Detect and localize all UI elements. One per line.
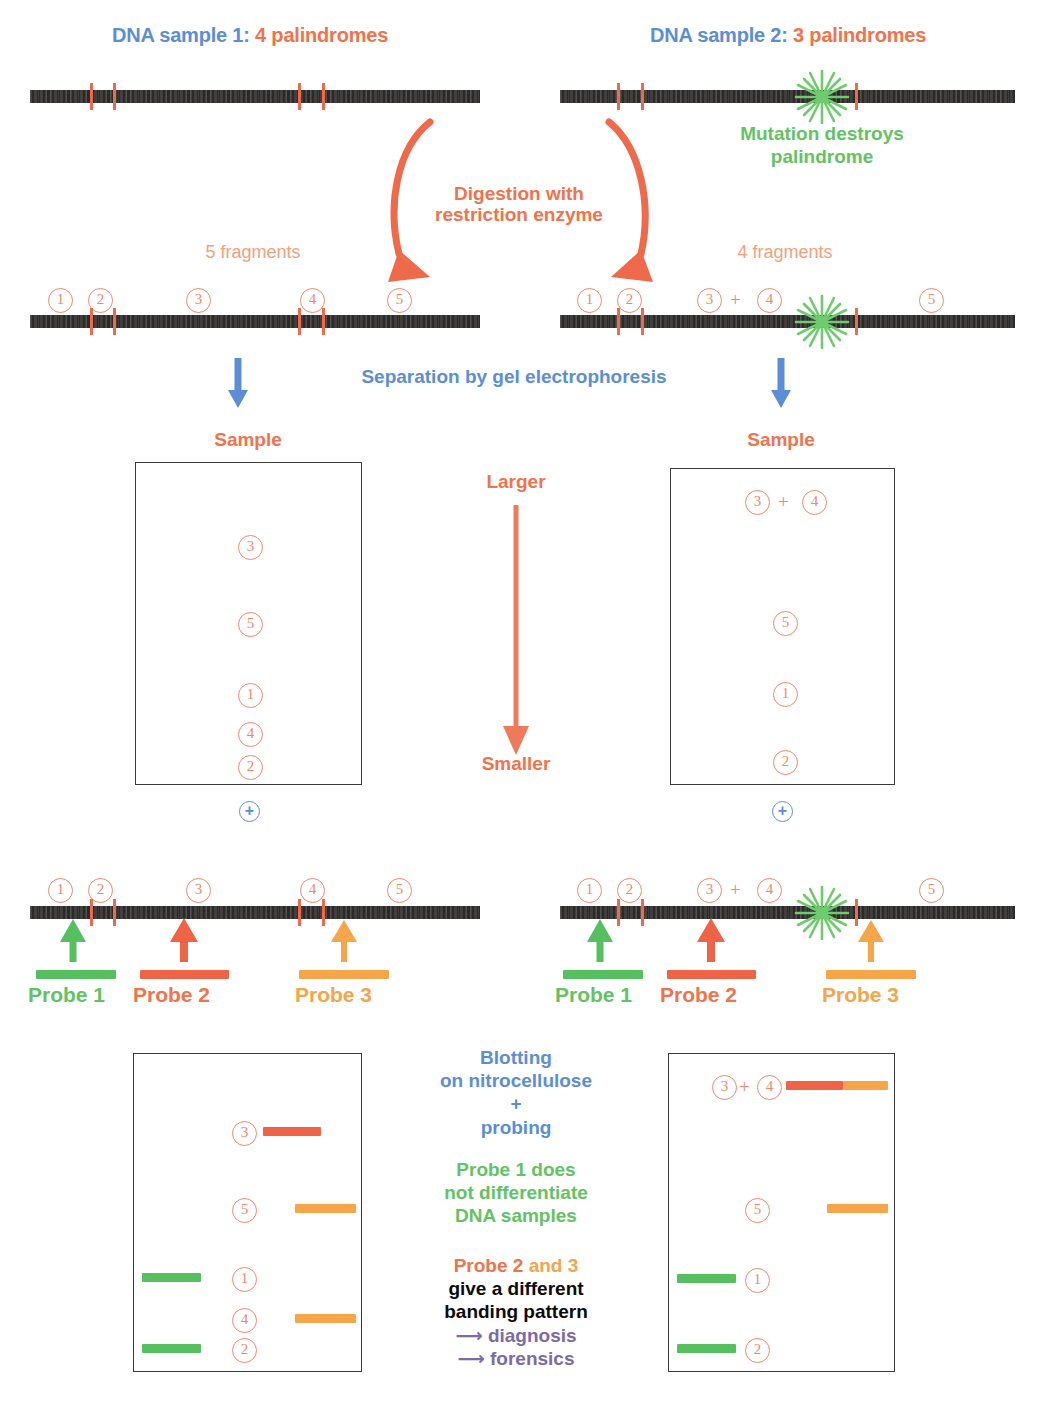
mutation-label-line1: Mutation destroys [740, 123, 904, 146]
mutation-label-line2: palindrome [740, 146, 904, 169]
restriction-site [617, 899, 620, 926]
dna-strand-sample2-digested [560, 315, 1015, 328]
blot-row-label-3: 3 [232, 1121, 257, 1146]
blotting-note: Blotting on nitrocellulose + probing [440, 1046, 592, 1139]
electrophoresis-caption: Separation by gel electrophoresis [361, 366, 666, 389]
gel-lane-label-5: 5 [238, 612, 263, 637]
gel-lane-label-3: 3 [238, 535, 263, 560]
blot-row-label-1: 1 [745, 1268, 770, 1293]
probe23-note-mid: and [523, 1255, 567, 1276]
restriction-site [617, 308, 620, 335]
fragment-number-1: 1 [577, 288, 602, 313]
left-fragment-count: 5 fragments [205, 242, 300, 263]
blot-band-orange-5 [827, 1204, 888, 1213]
probe-bar-2 [140, 970, 229, 979]
blotting-note-line1: Blotting [440, 1046, 592, 1069]
digestion-arrow-left [388, 122, 430, 282]
electrophoresis-arrow-left [228, 358, 248, 408]
sample2-title-count: 3 palindromes [793, 24, 926, 46]
blot-band-red-3 [786, 1081, 843, 1090]
probe-label-3: Probe 3 [822, 984, 899, 1005]
gel-lane-label-4: 4 [238, 722, 263, 747]
probe-fragment-number-4: 4 [757, 878, 782, 903]
gel-lane-label-3: 3 [745, 490, 770, 515]
probe-label-2: Probe 2 [660, 984, 737, 1005]
dna-fingerprinting-diagram: DNA sample 1: 4 palindromes DNA sample 2… [0, 0, 1047, 1427]
blot-band-orange-4 [295, 1314, 356, 1323]
blot-row-label-3: 3 [712, 1075, 737, 1100]
fragment-number-4: 4 [757, 288, 782, 313]
digestion-label: Digestion with restriction enzyme [435, 183, 603, 226]
probe23-note: Probe 2 and 3 give a different banding p… [444, 1254, 588, 1370]
probe-arrow-2 [170, 918, 198, 962]
probe-bar-3 [299, 970, 389, 979]
blot-band-green-2 [142, 1344, 201, 1353]
gel-lane-label-1: 1 [773, 682, 798, 707]
probe-fragment-number-5: 5 [919, 878, 944, 903]
probe-arrow-2 [697, 918, 725, 962]
probe-label-3: Probe 3 [295, 984, 372, 1005]
probe-bar-1 [36, 970, 116, 979]
restriction-site [322, 308, 325, 335]
restriction-site [322, 83, 325, 110]
dna-strand-sample1-intact [30, 90, 480, 103]
blot-band-green-1 [677, 1274, 736, 1283]
sample2-title: DNA sample 2: 3 palindromes [650, 24, 926, 47]
restriction-site [617, 83, 620, 110]
restriction-site [113, 899, 116, 926]
sample-label-right: Sample [747, 429, 815, 451]
gel-lane-label-5: 5 [773, 611, 798, 636]
dna-strand-sample1-probed [30, 906, 480, 919]
sample1-title: DNA sample 1: 4 palindromes [112, 24, 388, 47]
blot-band-green-1 [142, 1273, 201, 1282]
size-gradient-arrow [503, 505, 529, 755]
sample1-title-prefix: DNA sample 1: [112, 24, 250, 46]
restriction-site [322, 899, 325, 926]
probe-bar-2 [667, 970, 756, 979]
probe-fragment-number-5: 5 [387, 878, 412, 903]
gel-lane-label-2: 2 [773, 750, 798, 775]
restriction-site [855, 899, 858, 926]
digestion-label-line1: Digestion with [435, 183, 603, 204]
blot-row-label-2: 2 [745, 1338, 770, 1363]
probe-arrow-3 [858, 920, 884, 962]
probe-bar-1 [563, 970, 643, 979]
dna-strand-sample2-intact [560, 90, 1015, 103]
blot-row-plus-sign: + [739, 1075, 750, 1098]
blot-band-orange-5 [295, 1204, 356, 1213]
probe1-note: Probe 1 does not differentiate DNA sampl… [444, 1158, 588, 1228]
sample1-title-count: 4 palindromes [255, 24, 388, 46]
right-fragment-count: 4 fragments [737, 242, 832, 263]
gel-lane-label-1: 1 [238, 683, 263, 708]
restriction-site [298, 899, 301, 926]
smaller-label: Smaller [482, 753, 551, 775]
digestion-label-line2: restriction enzyme [435, 204, 603, 225]
probe-arrow-1 [60, 919, 86, 962]
blot-row-label-4: 4 [232, 1308, 257, 1333]
dna-strand-sample1-digested [30, 315, 480, 328]
probe-label-1: Probe 1 [555, 984, 632, 1005]
blot-band-orange-4 [843, 1081, 888, 1090]
blot-box-left: 3 5 1 4 2 [133, 1053, 362, 1372]
blot-row-label-5: 5 [745, 1198, 770, 1223]
probe-fragment-plus-sign: + [730, 878, 741, 901]
probe1-note-line1: Probe 1 does [444, 1158, 588, 1181]
restriction-site [113, 308, 116, 335]
digestion-arrow-right [609, 122, 653, 282]
blot-row-label-5: 5 [232, 1198, 257, 1223]
fragment-number-3: 3 [697, 288, 722, 313]
gel-box-left: 3 5 1 4 2 [135, 462, 362, 785]
restriction-site [90, 899, 93, 926]
restriction-site [90, 83, 93, 110]
dna-strand-sample2-probed [560, 906, 1015, 919]
fragment-number-3: 3 [186, 288, 211, 313]
blotting-note-line4: probing [440, 1116, 592, 1139]
gel-lane-label-2: 2 [238, 755, 263, 780]
probe23-note-line2: give a different [444, 1277, 588, 1300]
restriction-site [298, 308, 301, 335]
restriction-site [641, 899, 644, 926]
gel-lane-plus-sign: + [778, 490, 789, 513]
mutation-label: Mutation destroys palindrome [740, 123, 904, 169]
blot-row-label-1: 1 [232, 1267, 257, 1292]
probe-bar-3 [826, 970, 916, 979]
